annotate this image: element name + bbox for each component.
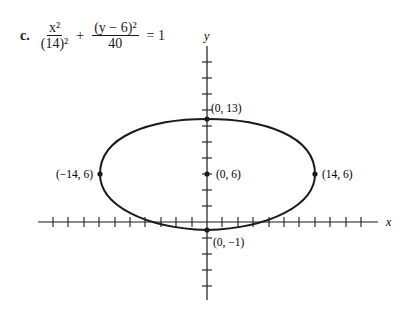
point-bottom xyxy=(204,227,209,232)
point-center xyxy=(204,171,209,176)
point-right xyxy=(312,171,317,176)
label-left: (−14, 6) xyxy=(56,168,93,181)
x-axis-label: x xyxy=(385,215,392,229)
ellipse-graph: y x (0, 13) (0, 6) (−14, 6) (14, 6) (0, … xyxy=(0,0,411,319)
label-right: (14, 6) xyxy=(322,168,353,181)
label-top: (0, 13) xyxy=(211,102,242,115)
point-top xyxy=(204,116,209,121)
label-center: (0, 6) xyxy=(216,168,241,181)
label-bottom: (0, −1) xyxy=(213,236,245,249)
point-left xyxy=(97,171,102,176)
y-axis-label: y xyxy=(203,29,210,43)
